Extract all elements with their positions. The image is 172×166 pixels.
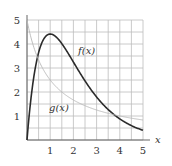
x-tick-label: 5 xyxy=(140,145,146,156)
y-tick-label: 1 xyxy=(14,111,20,122)
curve-label: f(x) xyxy=(77,45,95,56)
curve-label: g(x) xyxy=(49,102,69,113)
x-tick-label: 2 xyxy=(70,145,76,156)
y-tick-label: 5 xyxy=(14,15,20,26)
y-tick-label: 2 xyxy=(14,87,20,98)
x-axis-label: x xyxy=(155,134,161,145)
y-tick-label: 3 xyxy=(14,63,20,74)
chart: 1234512345xf(x)g(x) xyxy=(0,0,172,166)
x-tick-label: 1 xyxy=(47,145,53,156)
x-tick-label: 4 xyxy=(117,145,123,156)
y-tick-label: 4 xyxy=(14,39,20,50)
x-tick-label: 3 xyxy=(93,145,99,156)
